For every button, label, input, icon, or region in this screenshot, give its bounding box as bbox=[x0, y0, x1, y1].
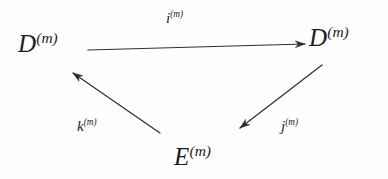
edge-superscript: (m) bbox=[170, 9, 183, 19]
edge-base-symbol: k bbox=[77, 118, 84, 134]
edge-label-j: j(m) bbox=[281, 118, 298, 134]
edge-superscript: (m) bbox=[285, 117, 298, 127]
node-label-d-right: D(m) bbox=[309, 24, 349, 50]
node-superscript: (m) bbox=[327, 23, 349, 40]
node-base-symbol: D bbox=[309, 24, 327, 51]
node-base-symbol: E bbox=[174, 143, 189, 170]
node-superscript: (m) bbox=[189, 142, 211, 159]
node-base-symbol: D bbox=[18, 30, 36, 57]
edge-arrow-i bbox=[88, 44, 305, 50]
node-superscript: (m) bbox=[36, 29, 58, 46]
node-label-e-bottom: E(m) bbox=[174, 143, 211, 169]
diagram-canvas: D(m) D(m) E(m) i(m) j(m) k(m) bbox=[0, 0, 388, 179]
edge-superscript: (m) bbox=[84, 117, 97, 127]
node-label-d-left: D(m) bbox=[18, 30, 58, 56]
edge-label-i: i(m) bbox=[166, 10, 183, 26]
edge-label-k: k(m) bbox=[77, 118, 97, 134]
